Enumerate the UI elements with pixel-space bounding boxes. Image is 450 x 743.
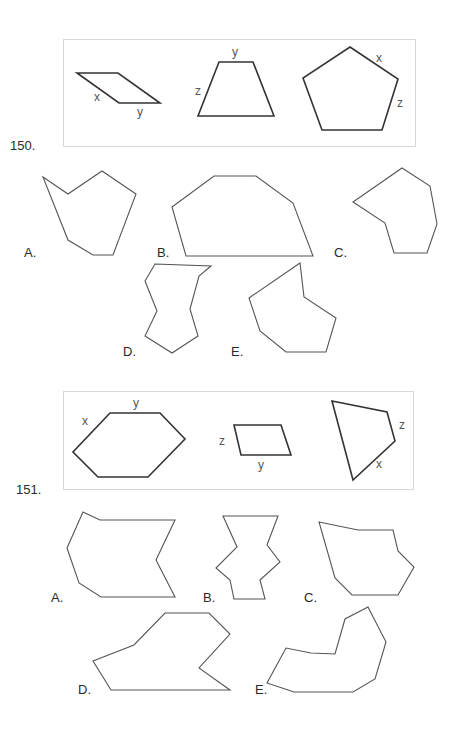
- q150-trapezoid-side-label-z: z: [195, 84, 201, 98]
- q151-hexagon-side-label-y: y: [133, 396, 139, 410]
- q151-quadrilateral-side-label-z: z: [399, 418, 405, 432]
- q151-option-a-label[interactable]: A.: [51, 590, 63, 605]
- q150-option-e-label[interactable]: E.: [231, 344, 243, 359]
- figures-canvas: [0, 0, 450, 743]
- q151-option-d-shape[interactable]: [93, 613, 230, 690]
- q151-reference-small-parallelogram: [234, 425, 291, 455]
- q150-pentagon-side-label-z: z: [397, 96, 403, 110]
- q151-option-b-label[interactable]: B.: [203, 590, 215, 605]
- q150-option-d-label[interactable]: D.: [123, 344, 136, 359]
- q151-option-d-label[interactable]: D.: [78, 682, 91, 697]
- q150-reference-pentagon: [303, 47, 398, 130]
- q150-option-b-shape[interactable]: [172, 176, 313, 256]
- q151-quadrilateral-side-label-x: x: [376, 457, 382, 471]
- q150-pentagon-side-label-x: x: [376, 51, 382, 65]
- q151-reference-quadrilateral: [332, 401, 395, 480]
- q151-option-e-label[interactable]: E.: [255, 682, 267, 697]
- q151-reference-hexagon: [73, 413, 185, 477]
- q151-option-a-shape[interactable]: [67, 512, 175, 597]
- q151-option-c-shape[interactable]: [319, 522, 414, 595]
- q151-option-b-shape[interactable]: [216, 516, 280, 599]
- q150-parallelogram-side-label-y: y: [137, 105, 143, 119]
- q150-option-a-label[interactable]: A.: [24, 245, 36, 260]
- q150-reference-parallelogram: [77, 73, 160, 103]
- q150-reference-trapezoid: [198, 62, 274, 116]
- q151-option-e-shape[interactable]: [267, 607, 386, 692]
- q151-option-c-label[interactable]: C.: [304, 590, 317, 605]
- q151-small-parallelogram-side-label-y: y: [258, 458, 264, 472]
- q150-option-a-shape[interactable]: [43, 171, 136, 255]
- q150-parallelogram-side-label-x: x: [94, 90, 100, 104]
- q150-option-c-label[interactable]: C.: [334, 245, 347, 260]
- q150-trapezoid-side-label-y: y: [232, 45, 238, 59]
- q150-option-b-label[interactable]: B.: [157, 245, 169, 260]
- q151-small-parallelogram-side-label-z: z: [219, 434, 225, 448]
- q150-option-e-shape[interactable]: [249, 263, 336, 352]
- q151-hexagon-side-label-x: x: [82, 414, 88, 428]
- q150-option-d-shape[interactable]: [145, 264, 211, 353]
- q150-option-c-shape[interactable]: [353, 168, 437, 253]
